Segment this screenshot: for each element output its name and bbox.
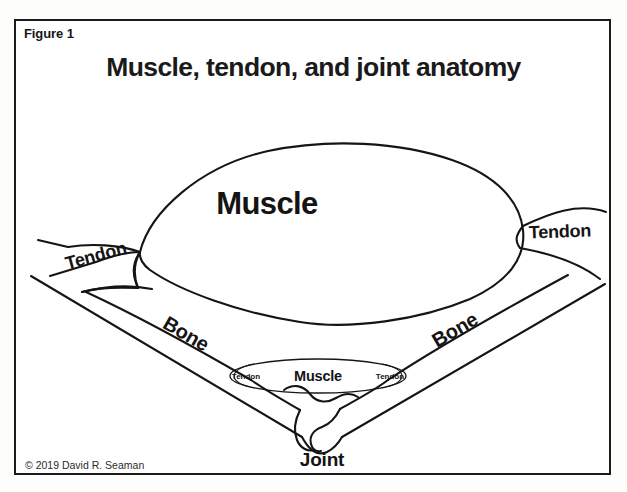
tendon-right-label: Tendon <box>528 220 591 243</box>
tendon-right-lower-edge <box>520 248 600 279</box>
muscle-belly-outline <box>140 143 523 324</box>
copyright-notice: © 2019 David R. Seaman <box>25 459 144 471</box>
tendon-inner-left-label: Tendon <box>232 372 260 381</box>
tendon-left-inner-seam <box>135 252 140 288</box>
figure-root: Figure 1 Muscle, tendon, and joint anato… <box>0 0 627 492</box>
tendon-inner-right-label: Tendon <box>376 372 404 381</box>
tendon-left-tail-upper <box>38 240 68 247</box>
bone-right-outer-line <box>342 284 605 437</box>
joint-wavy-surface <box>284 386 358 401</box>
bone-left-joint-head <box>251 380 300 410</box>
figure-number-label: Figure 1 <box>24 26 74 41</box>
muscle-inner-label: Muscle <box>294 368 342 384</box>
tendon-left-tail-lower <box>82 286 152 292</box>
muscle-belly-label: Muscle <box>216 186 318 222</box>
joint-label: Joint <box>300 449 344 471</box>
bone-left-outer-line <box>31 276 302 437</box>
figure-title: Muscle, tendon, and joint anatomy <box>0 52 627 83</box>
